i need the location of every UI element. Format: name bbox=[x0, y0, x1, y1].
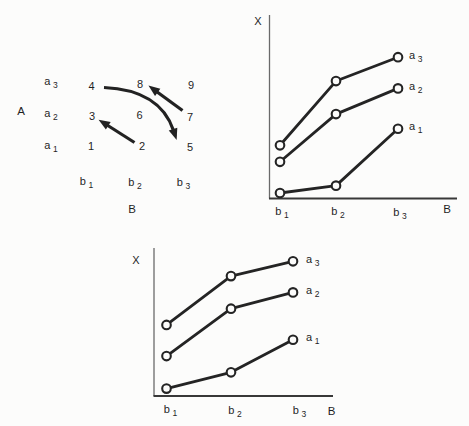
top-chart-tick-b3: b3 bbox=[393, 206, 406, 217]
series-line-a2-bottom-center bbox=[167, 292, 294, 356]
bottom-chart-tick-b3: b3 bbox=[293, 405, 306, 416]
matrix-row-axis-label: A bbox=[17, 106, 25, 118]
top-chart-tick-b2: b2 bbox=[331, 205, 344, 216]
matrix-cell-a2-b3: 7 bbox=[187, 111, 193, 122]
matrix-col-label-b3: b3 bbox=[177, 177, 190, 188]
matrix-col-label-b2: b2 bbox=[128, 176, 141, 187]
matrix-cell-a3-b1: 4 bbox=[88, 80, 94, 91]
series-label-a1-top-right: a1 bbox=[409, 121, 422, 132]
data-point-a3-top-right bbox=[332, 77, 341, 86]
series-label-a3-top-right: a3 bbox=[409, 49, 422, 60]
data-point-a3-top-right bbox=[276, 141, 285, 150]
bottom-chart-tick-b1: b1 bbox=[164, 404, 177, 415]
series-label-a2-top-right: a2 bbox=[409, 80, 422, 91]
data-point-a1-top-right bbox=[332, 181, 341, 190]
series-line-a1-bottom-center bbox=[167, 340, 294, 389]
matrix-cell-a3-b3: 9 bbox=[188, 80, 194, 91]
figure-canvas: A a3 a2 a1 4 8 9 3 6 7 1 2 5 b1 b2 b3 B … bbox=[0, 0, 469, 426]
series-line-a3-top-right bbox=[280, 57, 398, 145]
matrix-row-label-a2: a2 bbox=[44, 107, 57, 118]
data-point-a3-bottom-center bbox=[162, 321, 171, 330]
bottom-chart-y-axis-label: X bbox=[132, 255, 139, 266]
data-point-a3-bottom-center bbox=[227, 272, 236, 281]
series-line-a3-bottom-center bbox=[167, 261, 294, 325]
matrix-cell-a2-b2: 6 bbox=[136, 109, 142, 120]
data-point-a1-top-right bbox=[394, 124, 403, 133]
matrix-cell-a1-b2: 2 bbox=[139, 141, 145, 152]
data-point-a3-bottom-center bbox=[289, 257, 298, 266]
data-point-a2-bottom-center bbox=[227, 304, 236, 313]
data-point-a1-bottom-center bbox=[227, 368, 236, 377]
bottom-chart-tick-b2: b2 bbox=[228, 404, 241, 415]
data-point-a2-top-right bbox=[276, 158, 285, 167]
top-chart-y-axis-label: X bbox=[254, 16, 261, 27]
matrix-cell-a1-b1: 1 bbox=[88, 140, 94, 151]
matrix-cell-a2-b1: 3 bbox=[89, 110, 95, 121]
data-point-a2-top-right bbox=[394, 84, 403, 93]
bottom-chart-x-axis-label: B bbox=[328, 406, 336, 418]
matrix-col-axis-label: B bbox=[128, 204, 136, 216]
series-label-a1-bottom-center: a1 bbox=[306, 332, 319, 343]
data-point-a2-top-right bbox=[332, 110, 341, 119]
matrix-row-label-a1: a1 bbox=[44, 139, 57, 150]
series-label-a2-bottom-center: a2 bbox=[306, 284, 319, 295]
data-point-a2-bottom-center bbox=[289, 288, 298, 297]
series-label-a3-bottom-center: a3 bbox=[306, 253, 319, 264]
top-chart-tick-b1: b1 bbox=[275, 206, 288, 217]
data-point-a1-bottom-center bbox=[162, 384, 171, 393]
data-point-a3-top-right bbox=[394, 53, 403, 62]
data-point-a1-top-right bbox=[276, 189, 285, 198]
data-point-a2-bottom-center bbox=[162, 352, 171, 361]
top-chart-x-axis-label: B bbox=[443, 204, 451, 216]
data-point-a1-bottom-center bbox=[289, 335, 298, 344]
matrix-cell-a1-b3: 5 bbox=[187, 141, 193, 152]
matrix-col-label-b1: b1 bbox=[80, 175, 93, 186]
matrix-cell-a3-b2: 8 bbox=[137, 78, 143, 89]
matrix-row-label-a3: a3 bbox=[44, 75, 57, 86]
